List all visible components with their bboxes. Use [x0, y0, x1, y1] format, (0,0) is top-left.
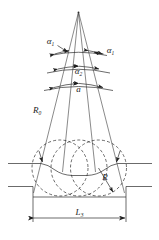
label-angle-inner: a	[76, 84, 81, 94]
label-radius-circle: R	[101, 172, 108, 182]
technical-diagram: α1 α1 α2 a R0 R	[0, 0, 159, 240]
ray-apex	[78, 11, 80, 13]
figure-background	[0, 0, 159, 240]
